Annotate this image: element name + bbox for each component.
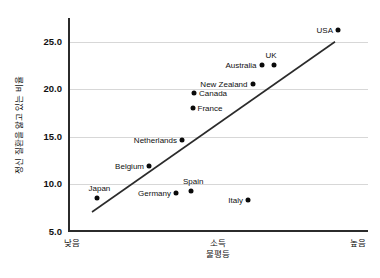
data-point [336, 28, 341, 33]
data-point-label: UK [266, 50, 277, 59]
y-tick-label: 20.0 [28, 84, 62, 94]
data-point-label: Netherlands [134, 135, 177, 144]
data-point-label: Australia [225, 60, 256, 69]
data-point [192, 91, 197, 96]
data-point [259, 62, 264, 67]
data-point [250, 81, 255, 86]
x-tick-label-high: 높음 [350, 238, 366, 249]
data-point-label: New Zealand [200, 79, 247, 88]
data-point-label: France [198, 104, 223, 113]
y-axis-tick-labels: 25.020.015.010.05.0 [24, 0, 62, 278]
data-point [246, 197, 251, 202]
y-tick-label: 25.0 [28, 37, 62, 47]
y-tick-label: 10.0 [28, 179, 62, 189]
data-point [94, 195, 99, 200]
trend-line [68, 18, 368, 232]
data-point [147, 164, 152, 169]
data-point-label: USA [317, 26, 333, 35]
x-tick-label-low: 낮음 [64, 238, 80, 249]
data-point [189, 189, 194, 194]
scatter-chart: 정신 질환을 앓고 있는 비율 25.020.015.010.05.0 USAU… [0, 0, 380, 278]
data-point [190, 106, 195, 111]
data-point-label: Canada [199, 89, 227, 98]
data-point-label: Germany [138, 189, 171, 198]
y-tick-label: 15.0 [28, 132, 62, 142]
data-point-label: Belgium [115, 162, 144, 171]
data-point-label: Spain [183, 177, 203, 186]
x-axis-caption-line2: 불평등 [206, 249, 230, 260]
data-point [174, 191, 179, 196]
data-point-label: Italy [228, 195, 243, 204]
plot-area: USAUKAustraliaNew ZealandCanadaFranceNet… [68, 18, 368, 232]
data-point [271, 62, 276, 67]
y-tick-label: 5.0 [28, 227, 62, 237]
data-point-label: Japan [89, 183, 111, 192]
data-point [180, 137, 185, 142]
x-axis-caption-line1: 소득 [210, 238, 226, 249]
